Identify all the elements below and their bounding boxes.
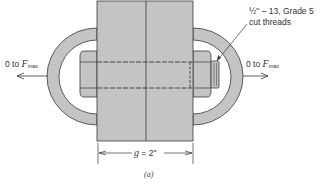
right-force-subscript: max <box>269 63 279 69</box>
bolt-spec-label: ½'' – 13, Grade 5 cut threads <box>249 7 314 26</box>
right-force-arrow <box>243 73 268 79</box>
nut <box>193 51 211 97</box>
bolt-head <box>80 51 97 97</box>
right-force-label: 0 to Fmax <box>246 59 279 70</box>
clamped-plates <box>97 1 193 141</box>
bolt-spec-line2: cut threads <box>249 18 314 27</box>
bolt-spec-line1: ½'' – 13, Grade 5 <box>249 7 314 16</box>
dimension-value: = 2'' <box>139 148 157 158</box>
bolt-threaded-end <box>211 61 219 88</box>
left-force-label: 0 to Fmax <box>5 59 38 70</box>
left-force-subscript: max <box>28 63 38 69</box>
left-force-prefix: 0 to <box>5 59 22 69</box>
bolted-joint-diagram <box>0 0 327 189</box>
dimension-label: g = 2'' <box>134 148 157 158</box>
right-force-prefix: 0 to <box>246 59 263 69</box>
figure-caption: (a) <box>144 170 153 179</box>
left-force-arrow <box>17 73 48 79</box>
